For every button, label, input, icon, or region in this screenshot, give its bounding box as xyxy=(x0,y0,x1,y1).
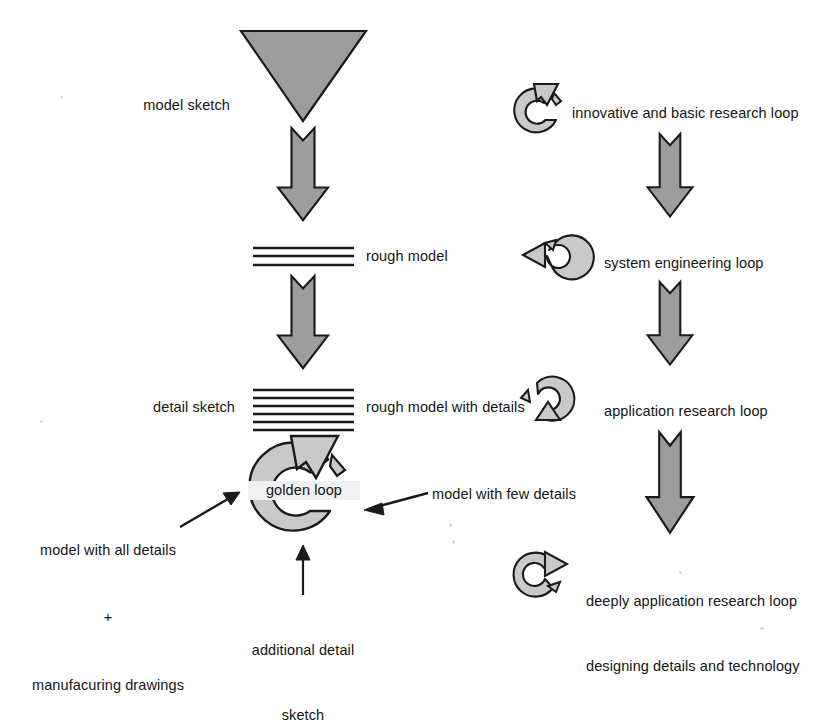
label-model-sketch: model sketch xyxy=(110,96,230,115)
flow-arrow-left-1 xyxy=(278,128,328,220)
scan-speckle xyxy=(452,540,455,544)
flow-arrow-right-1 xyxy=(648,134,693,217)
annotation-line-3: manufacuring drawings xyxy=(18,674,198,696)
label-rough-model-with-details: rough model with details xyxy=(366,398,525,417)
annotation-line-1: model with all details xyxy=(18,539,198,561)
loop-icon-application-research xyxy=(521,377,574,421)
rough-model-lines xyxy=(253,248,354,265)
loop-icon-deeply-application-research xyxy=(514,552,567,597)
deeply-loop-line-1: deeply application research loop xyxy=(586,591,800,613)
label-application-research-loop: application research loop xyxy=(604,402,768,421)
scan-speckle xyxy=(679,571,682,574)
scan-speckle xyxy=(40,420,43,423)
loop-icon-innovative-basic-research xyxy=(514,84,561,132)
annotation-additional-detail-sketch: additional detail sketch xyxy=(223,596,383,724)
annotation-arrow-few-details xyxy=(364,493,428,515)
label-innovative-basic-research-loop: innovative and basic research loop xyxy=(572,104,799,123)
label-detail-sketch: detail sketch xyxy=(110,398,235,417)
scan-speckle xyxy=(60,96,63,99)
rough-model-details-lines xyxy=(253,390,354,430)
label-system-engineering-loop: system engineering loop xyxy=(604,254,763,273)
annotation-line-2: + xyxy=(18,606,198,628)
scan-speckle xyxy=(305,139,308,142)
scan-speckle xyxy=(449,523,452,527)
annotation-model-all-details: model with all details + manufacuring dr… xyxy=(18,494,198,724)
annotation-additional-line-1: additional detail xyxy=(223,640,383,662)
deeply-loop-line-2: designing details and technology xyxy=(586,656,800,678)
label-deeply-application-research-loop: deeply application research loop designi… xyxy=(586,547,800,721)
annotation-model-few-details: model with few details xyxy=(432,485,576,504)
flow-arrow-right-3 xyxy=(647,432,694,533)
flow-arrow-left-2 xyxy=(278,276,328,368)
annotation-additional-line-2: sketch xyxy=(223,705,383,724)
model-sketch-triangle xyxy=(241,31,366,121)
golden-loop-label: golden loop xyxy=(248,481,360,500)
scan-speckle xyxy=(760,627,764,630)
label-rough-model: rough model xyxy=(366,247,448,266)
flow-arrow-right-2 xyxy=(648,282,693,365)
loop-icon-system-engineering xyxy=(523,235,594,279)
annotation-arrow-additional-sketch xyxy=(296,545,310,595)
